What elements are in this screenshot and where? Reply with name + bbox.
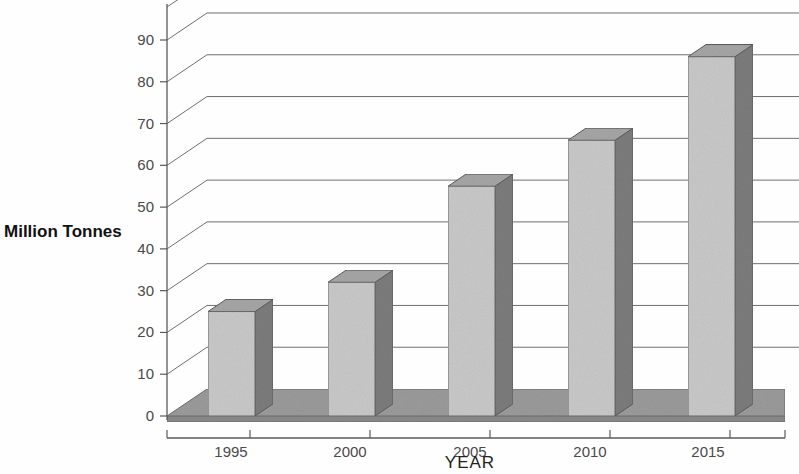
bar-2015 <box>688 45 753 416</box>
bar-front-face <box>568 140 615 416</box>
chart-canvas: 9080706050403020100 19952000200520102015… <box>0 0 799 474</box>
x-tick-label: 2000 <box>333 443 366 460</box>
bar-front-face <box>208 312 255 416</box>
bar-chart-figure: 9080706050403020100 19952000200520102015… <box>0 0 799 474</box>
y-tick-label: 60 <box>137 156 154 173</box>
y-tick-label: 40 <box>137 240 154 257</box>
y-tick-label: 80 <box>137 73 154 90</box>
bar-side-face <box>615 128 633 416</box>
y-tick-label: 90 <box>137 31 154 48</box>
x-tick-label: 2010 <box>573 443 606 460</box>
x-axis-label: YEAR <box>445 453 495 472</box>
y-tick-label: 0 <box>146 407 154 424</box>
bars <box>208 45 753 416</box>
y-tick-label: 30 <box>137 282 154 299</box>
gridline <box>167 13 799 40</box>
bar-2010 <box>568 128 633 416</box>
y-axis-label: Million Tonnes <box>4 222 122 241</box>
bar-front-face <box>328 282 375 416</box>
y-tick-label: 50 <box>137 198 154 215</box>
bar-front-face <box>688 57 735 416</box>
bar-2000 <box>328 270 393 416</box>
bar-side-face <box>735 45 753 416</box>
y-tick-label: 20 <box>137 323 154 340</box>
floor-front-edge <box>167 416 785 422</box>
bar-side-face <box>255 299 273 416</box>
y-axis-ticks: 9080706050403020100 <box>137 31 167 424</box>
bar-side-face <box>495 174 513 416</box>
x-tick-label: 1995 <box>214 443 247 460</box>
y-tick-label: 70 <box>137 115 154 132</box>
bar-1995 <box>208 299 273 416</box>
bar-side-face <box>375 270 393 416</box>
bar-2005 <box>448 174 513 416</box>
y-tick-label: 10 <box>137 365 154 382</box>
gridline-top <box>167 0 799 7</box>
bar-front-face <box>448 186 495 416</box>
x-tick-label: 2015 <box>691 443 724 460</box>
